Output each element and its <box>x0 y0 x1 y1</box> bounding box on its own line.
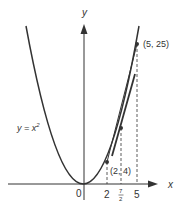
origin-label: 0 <box>76 188 82 199</box>
y-axis-arrow-icon <box>81 24 88 34</box>
tick-label-5: 5 <box>134 189 140 200</box>
tick-label-7-2-den: 2 <box>119 196 123 202</box>
point-2-4 <box>105 160 109 164</box>
point-5-25 <box>135 42 139 46</box>
parabola-diagram: y x 0 y = x2 (2, 4) (5, 25) 2 7 2 5 <box>0 0 182 211</box>
x-axis-arrow-icon <box>148 181 158 188</box>
point-midpoint <box>119 126 123 130</box>
tangent-line <box>112 74 135 156</box>
secant-line <box>107 44 137 162</box>
point-label-2-4: (2, 4) <box>110 166 131 176</box>
tick-label-2: 2 <box>104 189 110 200</box>
curve-label: y = x2 <box>16 122 40 133</box>
tick-label-7-2-num: 7 <box>119 188 123 194</box>
y-axis-label: y <box>81 7 88 18</box>
x-axis-label: x <box>167 179 174 190</box>
parabola-curve <box>26 26 139 184</box>
point-label-5-25: (5, 25) <box>143 39 169 49</box>
